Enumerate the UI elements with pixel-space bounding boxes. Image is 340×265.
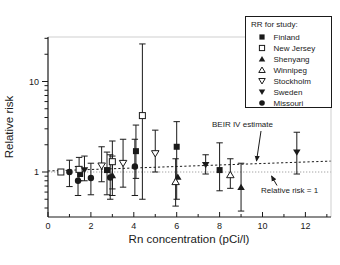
- legend-label: Shenyang: [274, 55, 310, 64]
- x-tick-label: 10: [257, 221, 267, 231]
- legend-label: New Jersey: [274, 44, 316, 53]
- data-point-finland: [104, 167, 110, 173]
- data-point-missouri: [107, 174, 113, 180]
- data-point-finland: [174, 144, 180, 150]
- circle-filled-icon: [259, 100, 265, 106]
- relative-risk-scatter-plot: 024681012110 Rn concentration (pCi/l) Re…: [0, 0, 340, 265]
- x-tick-label: 4: [131, 221, 136, 231]
- data-point-finland: [217, 167, 223, 173]
- data-point-missouri: [88, 175, 94, 181]
- x-tick-label: 12: [300, 221, 310, 231]
- legend-label: Sweden: [274, 88, 303, 97]
- chart-figure: 024681012110 Rn concentration (pCi/l) Re…: [0, 0, 340, 265]
- legend-label: Missouri: [274, 99, 304, 108]
- data-point-new-jersey: [139, 113, 145, 119]
- legend-label: Stockholm: [274, 77, 312, 86]
- beir-annotation-label: BEIR IV estimate: [212, 120, 273, 129]
- x-tick-label: 6: [174, 221, 179, 231]
- annotations: BEIR IV estimateRelative risk = 1: [212, 120, 319, 195]
- legend: FinlandNew JerseyShenyangWinnipegStockho…: [246, 17, 332, 109]
- x-tick-label: 0: [45, 221, 50, 231]
- data-point-stockholm: [152, 151, 160, 157]
- x-axis-label: Rn concentration (pCi/l): [129, 233, 250, 245]
- y-tick-label: 1: [34, 167, 39, 177]
- x-tick-label: 2: [88, 221, 93, 231]
- legend-label: Finland: [274, 33, 300, 42]
- legend-title: RR for study:: [251, 20, 298, 29]
- data-point-missouri: [75, 178, 81, 184]
- data-point-shenyang: [237, 184, 245, 190]
- legend-label: Winnipeg: [274, 66, 307, 75]
- data-point-new-jersey: [58, 169, 64, 175]
- data-point-finland: [133, 148, 139, 154]
- unity-annotation-label: Relative risk = 1: [261, 186, 319, 195]
- x-tick-label: 8: [217, 221, 222, 231]
- square-open-icon: [259, 45, 264, 50]
- beir-annotation-arrow: [257, 131, 262, 161]
- data-point-new-jersey: [109, 159, 115, 165]
- y-axis-label: Relative risk: [3, 95, 15, 158]
- unity-annotation-arrow: [272, 176, 278, 186]
- square-filled-icon: [259, 34, 264, 39]
- data-point-stockholm: [119, 160, 127, 166]
- data-point-missouri: [132, 163, 138, 169]
- data-point-missouri: [66, 169, 72, 175]
- data-point-winnipeg: [227, 171, 235, 177]
- y-tick-label: 10: [29, 77, 39, 87]
- data-point-sweden: [293, 149, 301, 155]
